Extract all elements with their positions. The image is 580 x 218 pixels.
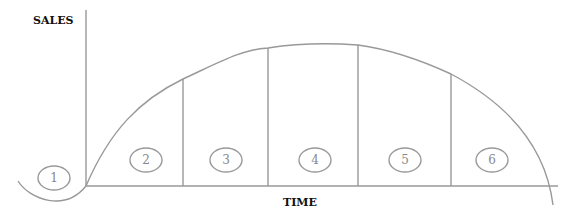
stage-marker-2: 2 bbox=[130, 148, 162, 172]
stage-label: 1 bbox=[50, 171, 58, 185]
sales-curve bbox=[86, 44, 553, 205]
sales-time-diagram: SALES TIME 1 2 3 4 5 6 bbox=[0, 0, 580, 218]
x-axis-label: TIME bbox=[283, 196, 317, 209]
stage-label: 3 bbox=[222, 153, 230, 167]
y-axis-label: SALES bbox=[33, 14, 74, 27]
stage-label: 4 bbox=[311, 153, 319, 167]
stage-marker-5: 5 bbox=[389, 148, 421, 172]
stage-label: 5 bbox=[401, 153, 409, 167]
stage-marker-1: 1 bbox=[38, 166, 70, 190]
stage-marker-3: 3 bbox=[210, 148, 242, 172]
stage-label: 6 bbox=[488, 153, 496, 167]
stage-label: 2 bbox=[142, 153, 150, 167]
stage-marker-4: 4 bbox=[299, 148, 331, 172]
stage-marker-6: 6 bbox=[476, 148, 508, 172]
